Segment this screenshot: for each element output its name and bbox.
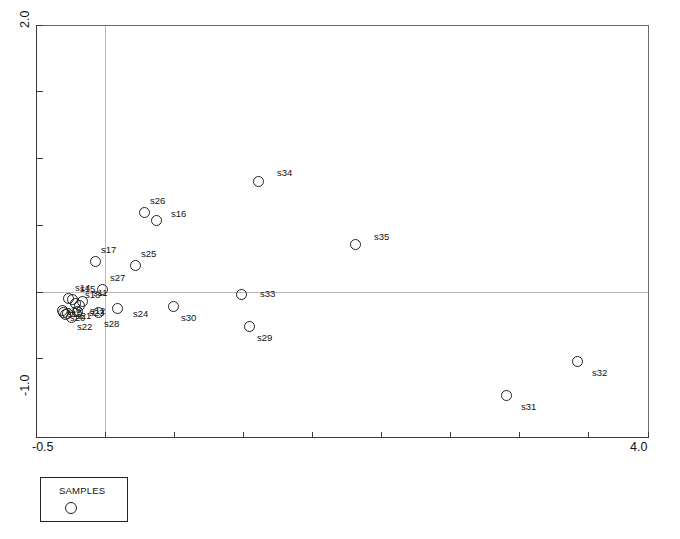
y-axis xyxy=(36,25,37,438)
x-axis xyxy=(36,437,649,438)
x-tick-9 xyxy=(648,432,649,438)
point-marker-circle-icon xyxy=(66,312,77,323)
point-label: s33 xyxy=(260,289,275,299)
point-label: s22 xyxy=(77,322,92,332)
point-label: s29 xyxy=(257,333,272,343)
point-marker-circle-icon xyxy=(236,289,247,300)
legend-title: SAMPLES xyxy=(59,485,105,496)
point-marker-circle-icon xyxy=(97,284,108,295)
point-marker-circle-icon xyxy=(253,176,264,187)
y-tick-6 xyxy=(37,437,43,438)
point-marker-circle-icon xyxy=(151,215,162,226)
legend: SAMPLES xyxy=(40,477,128,522)
y-tick-3 xyxy=(37,225,43,226)
y-tick-4 xyxy=(37,292,43,293)
plot-frame-top xyxy=(36,25,649,26)
y-axis-min-label: -1.0 xyxy=(18,374,32,396)
x-tick-8 xyxy=(588,432,589,438)
point-label: s16 xyxy=(171,209,186,219)
x-tick-6 xyxy=(450,432,451,438)
x-tick-4 xyxy=(312,432,313,438)
point-label: s24 xyxy=(133,309,148,319)
point-marker-circle-icon xyxy=(77,296,88,307)
point-label: s32 xyxy=(592,368,607,378)
point-label: s34 xyxy=(277,168,292,178)
scatter-plot: -0.5 4.0 2.0 -1.0 s14s15s18s19s20s21s23s… xyxy=(0,0,680,539)
plot-frame-right xyxy=(648,25,649,438)
x-tick-5 xyxy=(381,432,382,438)
gridline-vertical-zero xyxy=(105,25,106,437)
x-axis-max-label: 4.0 xyxy=(630,440,647,454)
x-tick-3 xyxy=(243,432,244,438)
point-marker-circle-icon xyxy=(350,239,361,250)
y-tick-0 xyxy=(37,25,43,26)
point-marker-circle-icon xyxy=(139,207,150,218)
point-marker-circle-icon xyxy=(90,256,101,267)
point-marker-circle-icon xyxy=(130,260,141,271)
x-tick-1 xyxy=(105,432,106,438)
point-label: s31 xyxy=(521,402,536,412)
x-tick-7 xyxy=(519,432,520,438)
gridline-horizontal-zero xyxy=(36,292,648,293)
x-tick-2 xyxy=(174,432,175,438)
point-label: s35 xyxy=(374,232,389,242)
legend-marker-circle-icon xyxy=(65,502,77,514)
point-marker-circle-icon xyxy=(572,356,583,367)
y-axis-max-label: 2.0 xyxy=(18,11,32,28)
point-label: s17 xyxy=(101,245,116,255)
y-tick-1 xyxy=(37,91,43,92)
point-marker-circle-icon xyxy=(93,307,104,318)
point-label: s26 xyxy=(150,196,165,206)
y-tick-5 xyxy=(37,358,43,359)
point-marker-circle-icon xyxy=(501,390,512,401)
x-axis-min-label: -0.5 xyxy=(32,440,54,454)
point-label: s27 xyxy=(110,273,125,283)
point-marker-circle-icon xyxy=(244,321,255,332)
point-marker-circle-icon xyxy=(112,303,123,314)
point-label: s25 xyxy=(141,249,156,259)
y-tick-2 xyxy=(37,158,43,159)
point-label: s30 xyxy=(181,313,196,323)
point-label: s28 xyxy=(104,319,119,329)
point-marker-circle-icon xyxy=(168,301,179,312)
